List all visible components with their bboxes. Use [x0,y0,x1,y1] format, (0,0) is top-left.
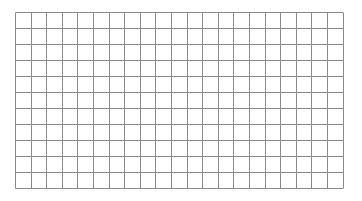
grid-lines [15,12,345,190]
grid-paper [15,12,345,190]
